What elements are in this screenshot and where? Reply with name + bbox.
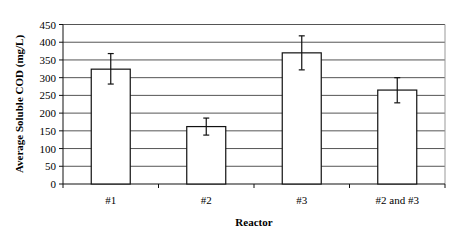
y-tick-label: 450 (40, 19, 57, 31)
x-tick-label: #1 (105, 194, 116, 206)
x-tick-labels: #1#2#3#2 and #3 (105, 194, 419, 206)
y-tick-label: 200 (40, 107, 57, 119)
y-tick-label: 0 (51, 178, 57, 190)
x-tick-label: #2 and #3 (376, 194, 420, 206)
bar (91, 69, 130, 184)
bar-chart: 050100150200250300350400450 #1#2#3#2 and… (0, 0, 459, 240)
y-tick-label: 400 (40, 36, 57, 48)
y-tick-label: 300 (40, 72, 57, 84)
y-tick-label: 250 (40, 89, 57, 101)
x-tick-label: #3 (296, 194, 308, 206)
y-tick-labels: 050100150200250300350400450 (40, 19, 57, 191)
y-tick-label: 100 (40, 143, 57, 155)
bar (282, 53, 321, 184)
x-axis-label: Reactor (235, 216, 272, 228)
bar (378, 90, 417, 184)
y-tick-label: 150 (40, 125, 57, 137)
y-axis-label: Average Soluble COD (mg/L) (13, 35, 26, 174)
y-tick-label: 350 (40, 54, 57, 66)
y-tick-label: 50 (45, 160, 57, 172)
bars (91, 36, 417, 184)
x-tick-label: #2 (201, 194, 212, 206)
